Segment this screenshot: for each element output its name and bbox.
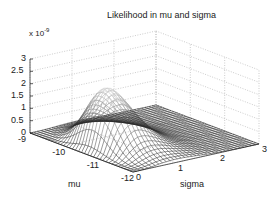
sigma-tick-label: 2 <box>220 154 225 163</box>
z-tick-label: 3 <box>21 54 26 63</box>
z-multiplier-exp: -9 <box>44 27 49 33</box>
sigma-tick-label: 0 <box>136 173 141 182</box>
z-multiplier: x 10-9 <box>29 27 49 38</box>
z-tick-label: 2.5 <box>11 66 24 75</box>
mu-tick-label: -12 <box>121 174 134 183</box>
mu-tick-label: -11 <box>87 161 99 170</box>
z-multiplier-base: x 10 <box>29 29 44 38</box>
mu-tick-label: -9 <box>18 135 26 144</box>
z-tick-label: 0.5 <box>11 116 24 125</box>
sigma-tick-label: 3 <box>262 145 267 154</box>
chart-title: Likelihood in mu and sigma <box>107 11 216 20</box>
z-tick-label: 1 <box>21 103 26 112</box>
z-tick-label: 1.5 <box>11 91 24 100</box>
sigma-tick-label: 1 <box>178 164 183 173</box>
y-axis-label: sigma <box>180 180 204 189</box>
z-tick-label: 2 <box>21 79 26 88</box>
mu-tick-label: -10 <box>52 148 65 157</box>
x-axis-label: mu <box>68 180 81 189</box>
